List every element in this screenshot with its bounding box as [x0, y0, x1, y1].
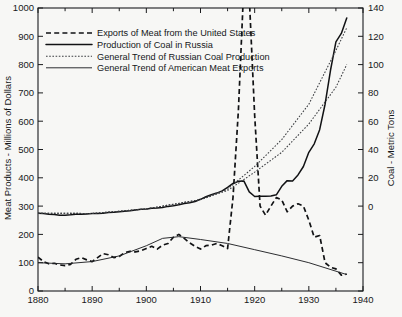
- y-tick-label-left: 1000: [13, 2, 34, 13]
- y-tick-label-right: 80: [368, 87, 379, 98]
- legend-label: Exports of Meat from the United States: [97, 28, 256, 38]
- y-tick-label-left: 800: [18, 59, 34, 70]
- y-tick-label-right: 60: [368, 116, 379, 127]
- y-tick-label-right: 0: [368, 201, 373, 212]
- y-tick-label-left: 600: [18, 116, 34, 127]
- y-tick-label-right: 100: [368, 59, 384, 70]
- chart-page: 1880189019001910192019301940 01002003004…: [0, 0, 402, 317]
- y-tick-label-left: 200: [18, 229, 34, 240]
- x-tick-label: 1940: [352, 294, 373, 305]
- y-tick-label-right: 120: [368, 31, 384, 42]
- y-tick-label-left: 500: [18, 144, 34, 155]
- x-tick-label: 1920: [244, 294, 265, 305]
- chart-canvas: 1880189019001910192019301940 01002003004…: [0, 0, 402, 317]
- y-tick-label-right: 40: [368, 144, 379, 155]
- x-tick-label: 1910: [190, 294, 211, 305]
- y-tick-label-right: 140: [368, 2, 384, 13]
- y-tick-label-left: 400: [18, 172, 34, 183]
- y-tick-label-right: 20: [368, 172, 379, 183]
- y-tick-label-left: 0: [29, 285, 34, 296]
- y-tick-label-left: 700: [18, 87, 34, 98]
- y-axis-left-title: Meat Products - Millions of Dollars: [2, 76, 13, 220]
- x-tick-label: 1930: [298, 294, 319, 305]
- legend-label: Production of Coal in Russia: [97, 40, 214, 50]
- y-tick-label-left: 300: [18, 201, 34, 212]
- y-tick-label-left: 900: [18, 31, 34, 42]
- y-axis-right-title: Coal - Metric Tons: [385, 110, 396, 187]
- y-tick-label-left: 100: [18, 257, 34, 268]
- x-tick-label: 1900: [136, 294, 157, 305]
- legend-label: General Trend of Russian Coal Production: [97, 52, 270, 62]
- legend-label: General Trend of American Meat Exports: [97, 63, 264, 73]
- x-tick-label: 1890: [82, 294, 103, 305]
